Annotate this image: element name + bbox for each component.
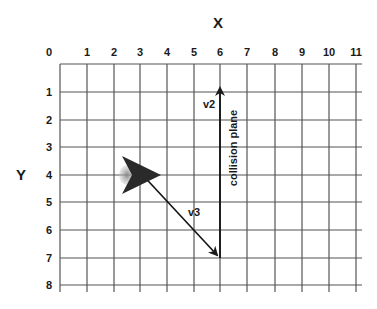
- x-tick: 11: [350, 46, 362, 58]
- x-axis-title: X: [213, 14, 223, 31]
- x-tick: 9: [299, 46, 305, 58]
- y-tick: 5: [46, 196, 52, 208]
- x-tick: 6: [217, 46, 223, 58]
- y-tick: 1: [46, 86, 52, 98]
- x-tick: 1: [84, 46, 90, 58]
- y-tick: 3: [46, 141, 52, 153]
- y-tick: 6: [46, 224, 52, 236]
- x-tick: 4: [164, 46, 170, 58]
- x-tick: 7: [244, 46, 250, 58]
- x-tick: 3: [137, 46, 143, 58]
- y-axis-title: Y: [16, 166, 26, 183]
- vector-v2-label: v2: [203, 98, 215, 110]
- y-tick: 2: [46, 114, 52, 126]
- x-tick: 5: [191, 46, 197, 58]
- x-tick: 10: [323, 46, 335, 58]
- x-tick: 8: [272, 46, 278, 58]
- x-tick: 2: [111, 46, 117, 58]
- y-tick: 7: [46, 252, 52, 264]
- vector-v3: [138, 170, 217, 255]
- coordinate-grid: [0, 0, 377, 309]
- y-tick: 4: [46, 169, 52, 181]
- x-tick: 0: [46, 46, 52, 58]
- vector-v3-label: v3: [188, 206, 200, 218]
- y-tick: 8: [46, 279, 52, 291]
- collision-plane-label: collision plane: [227, 110, 239, 186]
